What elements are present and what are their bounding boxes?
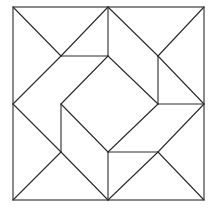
pinwheel-diagram (0, 0, 213, 209)
segment-13 (108, 104, 158, 152)
segment-12 (158, 104, 204, 152)
segment-3 (13, 56, 61, 104)
segment-18 (61, 152, 108, 200)
segment-22 (61, 104, 108, 152)
diagram-segments (13, 7, 204, 200)
segment-6 (108, 7, 158, 56)
segment-10 (108, 56, 158, 104)
segment-0 (13, 7, 61, 56)
segment-1 (61, 7, 108, 56)
segment-15 (108, 152, 158, 200)
segment-19 (13, 152, 61, 200)
segment-14 (158, 152, 204, 200)
segment-7 (158, 7, 204, 56)
segment-8 (158, 56, 204, 104)
segment-20 (13, 104, 61, 152)
segment-4 (61, 56, 108, 104)
